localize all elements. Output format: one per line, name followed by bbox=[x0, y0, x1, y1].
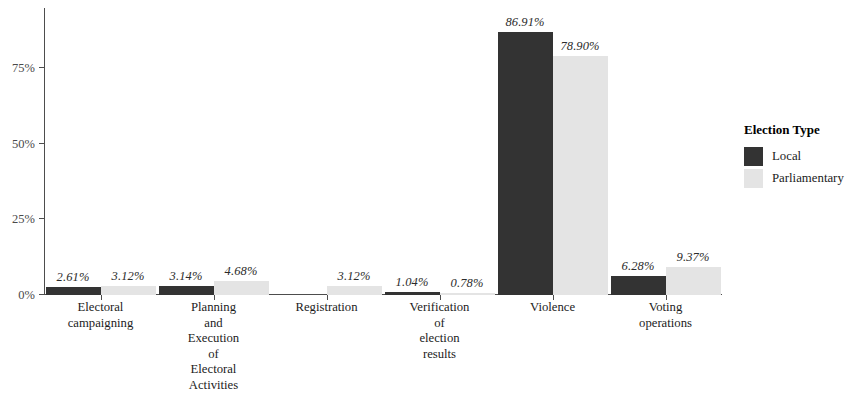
x-axis-category-line: of bbox=[383, 316, 496, 332]
bar-value-label: 9.37% bbox=[677, 250, 710, 265]
bar-value-label: 6.28% bbox=[622, 259, 655, 274]
x-axis-category-label: Electoralcampaigning bbox=[44, 300, 157, 331]
x-axis-category-line: Registration bbox=[270, 300, 383, 316]
bar-value-label: 78.90% bbox=[560, 39, 599, 54]
bar-value-label: 4.68% bbox=[225, 264, 258, 279]
x-axis-category-line: Electoral bbox=[157, 362, 270, 378]
bar bbox=[666, 267, 721, 295]
bar-value-label: 3.12% bbox=[112, 269, 145, 284]
bar-value-label: 3.12% bbox=[338, 269, 371, 284]
x-axis-category-label: Votingoperations bbox=[609, 300, 722, 331]
x-axis-category-label: Verificationofelectionresults bbox=[383, 300, 496, 362]
legend-item-parliamentary[interactable]: Parliamentary bbox=[744, 167, 856, 189]
bar bbox=[611, 276, 666, 295]
legend-item-label: Local bbox=[772, 149, 801, 164]
bar-value-label: 2.61% bbox=[57, 270, 90, 285]
bar-value-label: 1.04% bbox=[396, 275, 429, 290]
x-axis-category-line: Execution bbox=[157, 331, 270, 347]
legend: Election Type LocalParliamentary bbox=[744, 122, 856, 189]
x-axis-category-line: campaigning bbox=[44, 316, 157, 332]
x-axis-category-line: Voting bbox=[609, 300, 722, 316]
x-axis-category-line: and bbox=[157, 316, 270, 332]
x-axis-category-line: Planning bbox=[157, 300, 270, 316]
bar-value-label: 0.78% bbox=[451, 276, 484, 291]
x-axis-category-line: results bbox=[383, 347, 496, 363]
bar bbox=[553, 56, 608, 295]
bar bbox=[101, 286, 156, 295]
bar bbox=[440, 293, 495, 295]
legend-color-swatch bbox=[744, 147, 763, 166]
x-axis-category-line: operations bbox=[609, 316, 722, 332]
legend-entries: LocalParliamentary bbox=[744, 145, 856, 189]
x-axis-category-line: Activities bbox=[157, 378, 270, 394]
x-axis-category-label: Violence bbox=[496, 300, 609, 316]
bar bbox=[498, 32, 553, 295]
chart-root: 0%25%50%75% 2.61%3.12%3.14%4.68%3.12%1.0… bbox=[0, 0, 859, 407]
bar-value-label: 3.14% bbox=[170, 269, 203, 284]
legend-item-local[interactable]: Local bbox=[744, 145, 856, 167]
x-axis-category-line: Electoral bbox=[44, 300, 157, 316]
bar bbox=[327, 286, 382, 295]
x-axis-category-label: Registration bbox=[270, 300, 383, 316]
legend-item-label: Parliamentary bbox=[772, 171, 844, 186]
bar bbox=[46, 287, 101, 295]
x-axis-category-label: PlanningandExecutionofElectoralActivitie… bbox=[157, 300, 270, 394]
bar bbox=[159, 286, 214, 295]
x-axis-category-line: Verification bbox=[383, 300, 496, 316]
x-axis-category-line: of bbox=[157, 347, 270, 363]
x-axis-category-line: election bbox=[383, 331, 496, 347]
legend-title: Election Type bbox=[744, 122, 856, 138]
bar bbox=[385, 292, 440, 295]
legend-color-swatch bbox=[744, 169, 763, 188]
bar bbox=[214, 281, 269, 295]
bar-value-label: 86.91% bbox=[505, 15, 544, 30]
x-axis-category-line: Violence bbox=[496, 300, 609, 316]
